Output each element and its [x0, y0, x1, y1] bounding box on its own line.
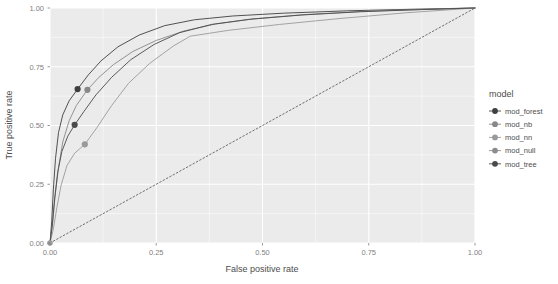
- legend-key-marker: [492, 135, 498, 141]
- legend-label: mod_null: [505, 146, 536, 155]
- series-marker-mod_tree: [72, 122, 78, 128]
- legend-entries: mod_forestmod_nbmod_nnmod_nullmod_tree: [487, 104, 543, 170]
- legend-key-marker: [492, 148, 498, 154]
- x-tick-label: 0.75: [361, 248, 376, 257]
- x-tick-label: 1.00: [468, 248, 483, 257]
- legend-item-mod_nn[interactable]: mod_nn: [487, 131, 539, 144]
- series-marker-mod_forest: [75, 86, 81, 92]
- y-tick-label: 0.75: [29, 63, 44, 72]
- legend-label: mod_nb: [505, 120, 532, 129]
- legend-item-mod_tree[interactable]: mod_tree: [487, 157, 539, 170]
- legend-key-marker: [492, 161, 498, 167]
- y-tick-label: 1.00: [29, 4, 44, 13]
- y-tick-label: 0.25: [29, 180, 44, 189]
- x-tick-label: 0.50: [255, 248, 270, 257]
- series-marker-mod_nb: [84, 87, 90, 93]
- legend-item-mod_null[interactable]: mod_null: [487, 144, 539, 157]
- legend-title: model: [489, 89, 514, 99]
- legend-item-mod_forest[interactable]: mod_forest: [487, 104, 543, 117]
- legend-label: mod_tree: [505, 160, 537, 169]
- legend-item-mod_nb[interactable]: mod_nb: [487, 118, 539, 131]
- series-marker-mod_nn: [82, 141, 88, 147]
- x-axis-title: False positive rate: [225, 264, 298, 274]
- x-tick-label: 0.25: [149, 248, 164, 257]
- legend-key-marker: [492, 121, 498, 127]
- legend-label: mod_nn: [505, 133, 532, 142]
- legend-label: mod_forest: [505, 107, 543, 116]
- y-axis-title: True positive rate: [4, 90, 14, 159]
- y-tick-label: 0.50: [29, 121, 44, 130]
- roc-curve-chart: 0.000.250.500.751.00 0.000.250.500.751.0…: [0, 0, 558, 284]
- y-tick-label: 0.00: [29, 239, 44, 248]
- legend-key-marker: [492, 108, 498, 114]
- x-tick-label: 0.00: [43, 248, 58, 257]
